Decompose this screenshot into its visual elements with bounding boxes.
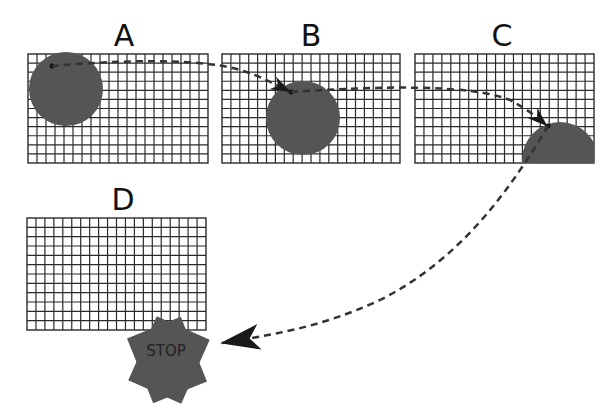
panel-label-b: B xyxy=(301,18,322,53)
ball-b xyxy=(266,81,340,155)
ball-trajectory-diagram: A B C D STOP xyxy=(0,0,615,412)
panel-b: B xyxy=(222,18,400,163)
stop-label: STOP xyxy=(146,342,186,360)
panel-a: A xyxy=(28,18,208,163)
panel-d: D xyxy=(27,182,206,330)
panel-label-a: A xyxy=(114,18,135,53)
panel-c: C xyxy=(415,18,598,198)
ball-c xyxy=(522,122,598,198)
grid-d xyxy=(27,218,206,330)
panel-label-d: D xyxy=(111,182,134,217)
panel-label-c: C xyxy=(492,18,513,53)
